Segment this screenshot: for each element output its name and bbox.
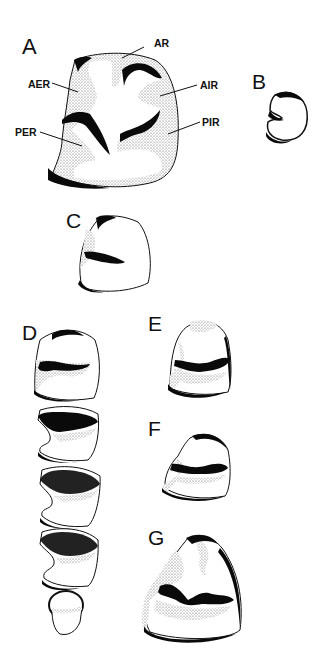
annotation-per: PER [15, 127, 37, 138]
tooth-d1 [34, 330, 99, 402]
tooth-f [162, 434, 230, 501]
panel-label-b: B [252, 71, 266, 92]
panel-label-c: C [66, 210, 81, 231]
annotation-air: AIR [200, 80, 218, 91]
tooth-d5 [49, 591, 83, 635]
tooth-a [40, 47, 200, 189]
panel-label-a: A [22, 36, 37, 58]
annotation-pir: PIR [202, 117, 220, 128]
panel-label-g: G [148, 527, 164, 548]
panel-label-d: D [22, 322, 37, 343]
annotation-aer: AER [28, 79, 50, 90]
panel-label-e: E [148, 313, 162, 334]
tooth-c [78, 215, 150, 292]
figure-canvas [0, 0, 326, 669]
tooth-g [142, 535, 241, 643]
tooth-b [266, 92, 307, 143]
tooth-d4 [40, 529, 98, 590]
tooth-d3 [40, 467, 100, 529]
tooth-e [168, 320, 231, 398]
panel-label-f: F [148, 418, 161, 439]
tooth-d2 [38, 407, 99, 463]
annotation-ar: AR [154, 38, 169, 49]
